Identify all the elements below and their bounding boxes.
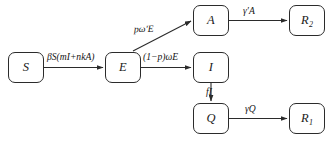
node-q: Q — [193, 103, 229, 134]
node-i-label: I — [209, 61, 213, 74]
node-e-label: E — [119, 61, 127, 74]
node-a: A — [193, 5, 229, 36]
node-r2-letter: R — [301, 13, 309, 27]
node-r2-subscript: 2 — [309, 20, 313, 29]
node-s: S — [8, 52, 44, 83]
node-r1-subscript: 1 — [309, 118, 313, 127]
node-r1: R1 — [289, 103, 325, 134]
edge-label-i-to-q: fI — [206, 87, 212, 97]
edge-label-e-to-a: pω′E — [134, 24, 154, 34]
node-s-label: S — [23, 61, 29, 74]
node-r1-label: R1 — [301, 112, 313, 125]
node-r2-label: R2 — [301, 14, 313, 27]
edge-label-a-to-r2: γ′A — [243, 6, 255, 16]
node-a-label: A — [207, 14, 215, 27]
edge-label-q-to-r1: γQ — [245, 104, 256, 114]
node-r1-letter: R — [301, 111, 309, 125]
node-e: E — [105, 52, 141, 83]
node-r2: R2 — [289, 5, 325, 36]
edge-label-s-to-e: βS(mI+nkA) — [47, 52, 94, 62]
edge-connectors — [0, 0, 333, 146]
flow-diagram: S E A I Q R2 R1 βS(mI+nkA) pω′E (1−p)ωE … — [0, 0, 333, 146]
node-i: I — [193, 52, 229, 83]
edge-label-e-to-i: (1−p)ωE — [143, 52, 178, 62]
node-q-label: Q — [206, 112, 215, 125]
